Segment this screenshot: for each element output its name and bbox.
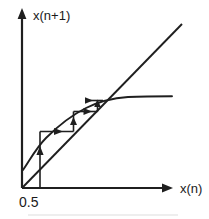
- axes-group: x(n+1) x(n) 0.5: [18, 8, 203, 210]
- cobweb-staircase-group: [36, 97, 103, 188]
- y-axis-arrow-icon: [18, 8, 27, 19]
- cobweb-figure: x(n+1) x(n) 0.5: [0, 0, 209, 219]
- scan-smudge: [28, 214, 178, 216]
- cobweb-arrow-up-2: [70, 117, 77, 125]
- x-axis-label: x(n): [180, 181, 202, 196]
- scan-smudge-mark: [28, 214, 178, 216]
- y-axis-label: x(n+1): [33, 8, 70, 23]
- identity-line-path: [23, 24, 182, 187]
- cobweb-arrow-right-1: [54, 128, 63, 135]
- identity-line-group: [23, 24, 182, 187]
- cobweb-diagram-svg: x(n+1) x(n) 0.5: [0, 0, 209, 219]
- cobweb-arrow-right-3: [85, 97, 93, 104]
- cobweb-arrow-right-2: [84, 108, 93, 115]
- x-tick-label-start: 0.5: [19, 194, 39, 210]
- x-axis-arrow-icon: [162, 184, 173, 193]
